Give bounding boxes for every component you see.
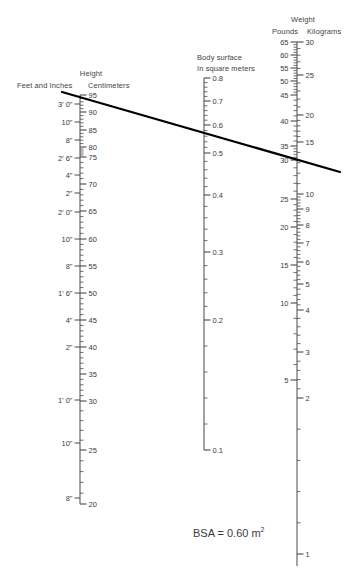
height-ft-label: 2" [66,343,73,352]
height-ft-label: 8" [66,494,73,503]
height-ft-label: 4" [66,171,73,180]
height-ft-label: 2' 6" [58,154,73,163]
weight-lb-label: 10 [280,299,288,308]
weight-kg-label: 2 [306,394,310,403]
weight-kg-label: 10 [306,190,314,199]
height-ft-label: 8" [66,262,73,271]
height-cm-label: 25 [89,446,97,455]
weight-kg-label: 9 [306,205,310,214]
height-ft-label: 10" [61,235,72,244]
nomogram-graphics: 202530354045505560657075808590953' 0"10"… [0,0,358,576]
height-cm-label: 85 [89,126,97,135]
height-cm-label: 40 [89,343,97,352]
weight-kg-label: 4 [306,306,310,315]
weight-lb-label: 5 [284,376,288,385]
height-cm-label: 20 [89,500,97,509]
height-cm-label: 70 [89,180,97,189]
weight-lb-label: 45 [280,91,288,100]
bsa-label: 0.1 [213,446,223,455]
height-axis: 20253035404550556065707580859095 [80,91,97,509]
weight-kg-label: 20 [306,111,314,120]
weight-lb-label: 40 [280,117,288,126]
weight-lb-label: 55 [280,64,288,73]
bsa-label: 0.3 [213,248,223,257]
weight-kg-label: 30 [306,38,314,47]
alignment-line [62,92,340,172]
height-cm-label: 55 [89,262,97,271]
weight-kg-label: 6 [306,258,310,267]
height-ft-label: 3' 0" [58,100,73,109]
weight-lb-label: 20 [280,223,288,232]
weight-kg-label: 25 [306,71,314,80]
height-cm-label: 30 [89,397,97,406]
height-ft-label: 10" [61,439,72,448]
weight-kg-label: 15 [306,138,314,147]
weight-axis: 3025201510987654321656055504540353025201… [280,38,314,566]
weight-lb-label: 50 [280,77,288,86]
height-ft-label: 1' 0" [58,396,73,405]
height-ft-label: 2' 0" [58,208,73,217]
weight-lb-label: 35 [280,142,288,151]
height-ft-label: 10" [61,118,72,127]
height-cm-label: 80 [89,143,97,152]
weight-lb-label: 15 [280,261,288,270]
height-cm-label: 50 [89,289,97,298]
height-ft-label: 2" [66,189,73,198]
bsa-label: 0.5 [213,149,223,158]
weight-lb-label: 60 [280,51,288,60]
height-ft-label: 8" [66,136,73,145]
bsa-label: 0.4 [213,191,223,200]
height-ft-label: 1' 6" [58,289,73,298]
height-ft-label: 4" [66,316,73,325]
bsa-label: 0.6 [213,121,223,130]
weight-kg-label: 7 [306,239,310,248]
nomogram-canvas: Height Feet and Inches Centimeters Body … [0,0,358,576]
bsa-label: 0.8 [213,74,223,83]
weight-kg-label: 5 [306,280,310,289]
bsa-label: 0.7 [213,97,223,106]
height-cm-label: 95 [89,91,97,100]
height-cm-label: 45 [89,316,97,325]
height-feet-inches-scale: 3' 0"10"8"2' 6"4"2"2' 0"10"8"1' 6"4"2"1'… [58,100,80,503]
height-cm-label: 35 [89,370,97,379]
bsa-label: 0.2 [213,316,223,325]
weight-kg-label: 8 [306,221,310,230]
weight-kg-label: 1 [306,550,310,559]
weight-lb-label: 25 [280,195,288,204]
height-cm-label: 75 [89,153,97,162]
body-surface-axis: 0.80.70.60.50.40.30.20.1 [204,74,223,455]
weight-lb-label: 65 [280,38,288,47]
height-cm-label: 60 [89,235,97,244]
weight-kg-label: 3 [306,348,310,357]
height-cm-label: 90 [89,108,97,117]
height-cm-label: 65 [89,207,97,216]
